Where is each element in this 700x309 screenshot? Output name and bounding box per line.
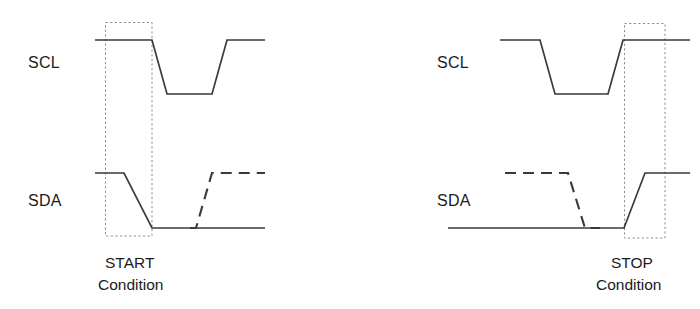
scl-signal-label-right: SCL [437,54,469,71]
sda-signal-label-left: SDA [28,192,62,209]
sda-waveform-start-dashed [190,173,265,228]
scl-signal-label-left: SCL [28,54,60,71]
sda-signal-label-right: SDA [437,192,471,209]
stop-condition-group: SCL SDA STOP Condition [437,24,690,294]
scl-waveform-stop [500,40,690,94]
stop-condition-label-line2: Condition [596,276,662,293]
start-condition-marker-box [106,23,153,237]
stop-condition-label-line1: STOP [611,254,653,271]
start-condition-label-line1: START [105,254,155,271]
stop-condition-marker-box [625,24,666,239]
i2c-timing-diagram: SCL SDA START Condition SCL SDA STOP Con… [0,0,700,309]
sda-waveform-start-solid [95,173,265,228]
sda-waveform-stop-dashed [505,173,600,228]
sda-waveform-stop-solid [448,173,690,228]
start-condition-label-line2: Condition [98,276,164,293]
scl-waveform-start [95,40,265,94]
timing-diagram-canvas: SCL SDA START Condition SCL SDA STOP Con… [0,0,700,309]
start-condition-group: SCL SDA START Condition [28,23,265,294]
